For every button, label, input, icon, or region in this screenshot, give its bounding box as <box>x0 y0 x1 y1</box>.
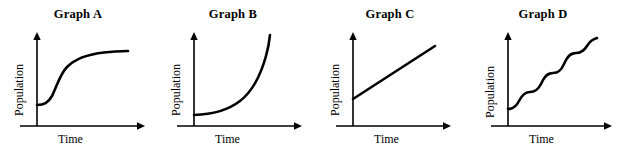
graph-a-y-axis-arrowhead <box>33 32 40 40</box>
graph-b-y-axis-label: Population <box>169 64 183 116</box>
graph-c-linear-line <box>353 46 435 99</box>
graph-c-title: Graph C <box>312 6 468 22</box>
graph-c-y-axis-arrowhead <box>349 32 356 40</box>
graph-d-y-axis-label: Population <box>483 66 497 118</box>
graph-d-stepwise-curve <box>508 38 597 109</box>
graph-b-x-axis-label: Time <box>215 132 240 146</box>
graph-panel-c: Graph C Time Population <box>312 0 468 163</box>
graph-b-x-axis-arrowhead <box>294 122 302 129</box>
graph-c-x-axis-arrowhead <box>443 122 451 129</box>
graph-panel-b: Graph B Time Population <box>155 0 311 163</box>
graph-panel-d: Graph D Time Population <box>465 0 621 163</box>
graph-c-y-axis-label: Population <box>328 64 342 116</box>
graph-d-x-axis-label: Time <box>529 132 554 146</box>
graph-a-x-axis-arrowhead <box>137 122 145 129</box>
graph-a-title: Graph A <box>0 6 156 22</box>
graph-a-x-axis-label: Time <box>58 132 83 146</box>
graph-b-title: Graph B <box>155 6 311 22</box>
population-growth-figure: Graph A Time Population Graph B Time Pop… <box>0 0 623 163</box>
graph-d-title: Graph D <box>465 6 621 22</box>
graph-panel-a: Graph A Time Population <box>0 0 156 163</box>
graph-c-x-axis-label: Time <box>374 132 399 146</box>
graph-a-y-axis-label: Population <box>12 64 26 116</box>
graph-b-exponential-curve <box>194 35 270 115</box>
graph-b-y-axis-arrowhead <box>190 32 197 40</box>
graph-a-logistic-curve <box>37 51 128 105</box>
graph-d-x-axis-arrowhead <box>604 122 612 129</box>
graph-d-y-axis-arrowhead <box>504 32 511 40</box>
